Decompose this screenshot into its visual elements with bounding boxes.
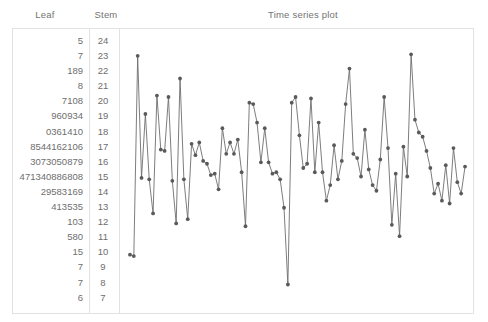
data-point xyxy=(143,112,147,116)
stem-leaf-row: 18922 xyxy=(13,63,119,78)
data-point xyxy=(405,175,409,179)
data-point xyxy=(271,172,275,176)
data-point xyxy=(209,173,213,177)
data-point xyxy=(151,212,155,216)
leaf-value: 103 xyxy=(13,214,83,229)
data-point xyxy=(301,166,305,170)
leaf-value: 413535 xyxy=(13,199,83,214)
stem-leaf-row: 1510 xyxy=(13,244,119,259)
plot-title: Time series plot xyxy=(118,9,488,20)
data-point xyxy=(328,183,332,187)
data-point xyxy=(351,152,355,156)
data-point xyxy=(413,118,417,122)
stem-leaf-row: 854416210617 xyxy=(13,139,119,154)
data-point xyxy=(140,176,144,180)
data-point xyxy=(178,77,182,81)
data-point xyxy=(286,283,290,287)
data-point xyxy=(309,97,313,101)
data-point xyxy=(340,159,344,163)
leaf-value: 7 xyxy=(13,275,83,290)
data-point xyxy=(428,166,432,170)
data-point xyxy=(294,95,298,99)
data-point xyxy=(282,206,286,210)
stem-leaf-row: 58011 xyxy=(13,229,119,244)
leaf-value: 960934 xyxy=(13,108,83,123)
data-point xyxy=(452,146,456,150)
data-point xyxy=(167,95,171,99)
time-series-plot xyxy=(120,29,473,313)
data-point xyxy=(355,156,359,160)
data-point xyxy=(267,160,271,164)
leaf-value: 6 xyxy=(13,290,83,305)
data-point xyxy=(201,159,205,163)
stem-leaf-row: 710820 xyxy=(13,93,119,108)
stem-value: 20 xyxy=(91,93,115,108)
data-point xyxy=(440,199,444,203)
stem-leaf-row: 96093419 xyxy=(13,108,119,123)
data-point xyxy=(463,165,467,169)
data-point xyxy=(455,180,459,184)
data-point xyxy=(436,182,440,186)
data-point xyxy=(290,101,294,105)
stem-value: 11 xyxy=(91,229,115,244)
data-point xyxy=(147,177,151,181)
data-point xyxy=(251,102,255,106)
data-point xyxy=(386,146,390,150)
stem-leaf-row: 524 xyxy=(13,33,119,48)
data-point xyxy=(459,192,463,196)
data-point xyxy=(182,177,186,181)
data-point xyxy=(221,126,225,130)
stem-leaf-row: 47134088680815 xyxy=(13,169,119,184)
leaf-value: 471340886808 xyxy=(13,169,83,184)
stem-leaf-row: 2958316914 xyxy=(13,184,119,199)
stem-value: 8 xyxy=(91,275,115,290)
data-point xyxy=(409,52,413,56)
stem-value: 13 xyxy=(91,199,115,214)
data-point xyxy=(359,175,363,179)
data-point xyxy=(159,148,163,152)
data-point xyxy=(240,170,244,174)
data-point xyxy=(263,126,267,130)
data-point xyxy=(217,187,221,191)
data-point xyxy=(274,170,278,174)
leaf-value: 7 xyxy=(13,259,83,274)
leaf-value: 15 xyxy=(13,244,83,259)
stem-value: 21 xyxy=(91,78,115,93)
stem-leaf-row: 723 xyxy=(13,48,119,63)
leaf-value: 580 xyxy=(13,229,83,244)
data-point xyxy=(136,54,140,58)
leaf-value: 29583169 xyxy=(13,184,83,199)
stem-value: 24 xyxy=(91,33,115,48)
data-point xyxy=(402,145,406,149)
leaf-value: 8 xyxy=(13,78,83,93)
data-point xyxy=(163,149,167,153)
data-point xyxy=(336,177,340,181)
data-point xyxy=(232,152,236,156)
leaf-value: 8544162106 xyxy=(13,139,83,154)
time-series-svg xyxy=(120,29,473,313)
stem-leaf-row: 78 xyxy=(13,275,119,290)
data-point xyxy=(190,142,194,146)
data-point xyxy=(425,149,429,153)
stem-value: 15 xyxy=(91,169,115,184)
data-point xyxy=(390,223,394,227)
data-point xyxy=(332,143,336,147)
stem-value: 19 xyxy=(91,108,115,123)
data-point xyxy=(348,67,352,71)
leaf-value: 3073050879 xyxy=(13,154,83,169)
data-point xyxy=(128,253,132,257)
stem-value: 9 xyxy=(91,259,115,274)
data-point xyxy=(378,158,382,162)
column-headers: Leaf Stem Time series plot xyxy=(0,0,488,28)
stem-value: 10 xyxy=(91,244,115,259)
data-point xyxy=(375,189,379,193)
stem-value: 14 xyxy=(91,184,115,199)
leaf-value: 0361410 xyxy=(13,124,83,139)
data-point xyxy=(313,170,317,174)
data-point xyxy=(213,172,217,176)
data-point xyxy=(324,199,328,203)
data-point xyxy=(197,141,201,145)
data-point xyxy=(305,162,309,166)
data-point xyxy=(417,131,421,135)
data-point xyxy=(398,234,402,238)
